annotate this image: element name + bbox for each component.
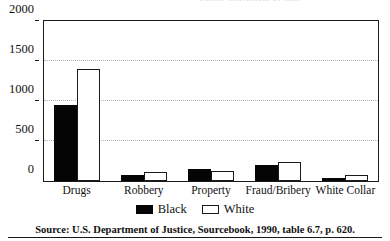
source-caption: Source: U.S. Department of Justice, Sour…: [0, 224, 390, 237]
x-axis: DrugsRobberyPropertyFraud/BriberyWhite C…: [43, 184, 379, 200]
y-tick-mark: [35, 140, 39, 141]
bar-group: [121, 21, 167, 181]
bar-black-property[interactable]: [188, 169, 211, 181]
x-tick-label: Robbery: [124, 184, 164, 198]
legend-entry-black[interactable]: Black: [136, 203, 187, 216]
cut-off-title-remnant: Felony Convictions by Race: [200, 0, 350, 2]
y-axis: 0500100015002000: [0, 20, 39, 182]
bar-group: [255, 21, 301, 181]
bars-layer: [43, 20, 379, 182]
y-tick-label: 0: [28, 162, 34, 175]
x-tick-label: Fraud/Bribery: [246, 184, 311, 198]
y-tick-mark: [35, 100, 39, 101]
legend-entry-white[interactable]: White: [202, 203, 255, 216]
bar-white-drugs[interactable]: [77, 69, 100, 181]
y-tick-label: 500: [15, 122, 34, 135]
bar-white-fraud-bribery[interactable]: [278, 162, 301, 181]
bar-white-robbery[interactable]: [144, 172, 167, 181]
legend-swatch-white-icon: [202, 205, 219, 214]
bar-chart-figure: Felony Convictions by Race 0500100015002…: [0, 0, 390, 241]
bar-white-property[interactable]: [211, 171, 234, 181]
caption-divider: [8, 237, 382, 238]
y-tick-mark: [35, 20, 39, 21]
x-tick-label: Property: [191, 184, 231, 198]
bar-black-white-collar[interactable]: [322, 178, 345, 181]
legend-swatch-black-icon: [136, 205, 153, 214]
y-tick-label: 2000: [9, 2, 34, 15]
bar-group: [54, 21, 100, 181]
y-tick-label: 1500: [9, 42, 34, 55]
y-tick-mark: [35, 60, 39, 61]
bar-black-fraud-bribery[interactable]: [255, 165, 278, 181]
plot-area: [43, 20, 379, 182]
legend-label: Black: [158, 203, 187, 216]
bar-black-drugs[interactable]: [54, 105, 77, 181]
chart-legend: BlackWhite: [0, 203, 390, 216]
legend-label: White: [224, 203, 255, 216]
bar-white-white-collar[interactable]: [345, 175, 368, 181]
bar-group: [188, 21, 234, 181]
x-tick-label: White Collar: [316, 184, 376, 198]
x-tick-label: Drugs: [63, 184, 91, 198]
y-tick-label: 1000: [9, 82, 34, 95]
bar-black-robbery[interactable]: [121, 175, 144, 181]
bar-group: [322, 21, 368, 181]
